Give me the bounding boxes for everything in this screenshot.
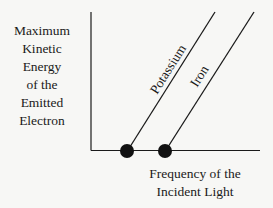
x-axis-label-line: Incident Light bbox=[120, 183, 270, 201]
x-axis-label: Frequency of the Incident Light bbox=[120, 165, 270, 201]
potassium-threshold-dot bbox=[120, 144, 134, 158]
x-axis-label-line: Frequency of the bbox=[120, 165, 270, 183]
iron-line bbox=[166, 12, 254, 150]
iron-threshold-dot bbox=[158, 144, 172, 158]
iron-label: Iron bbox=[187, 62, 212, 89]
potassium-label: Potassium bbox=[147, 41, 190, 96]
